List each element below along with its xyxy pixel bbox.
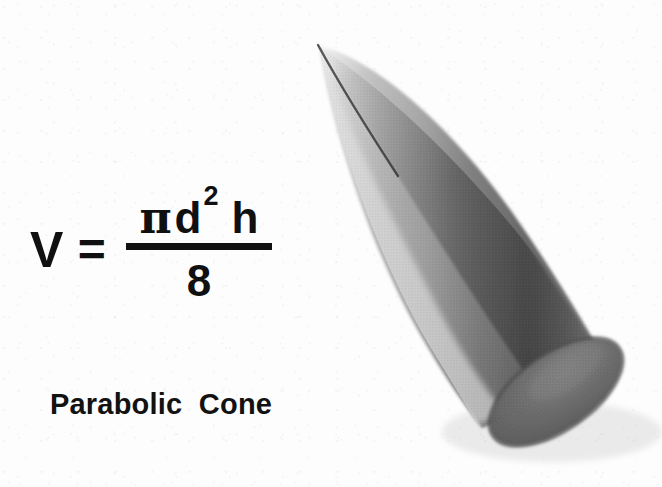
- formula-fraction: π d 2 h 8: [126, 196, 272, 303]
- figure-caption: Parabolic Cone: [50, 388, 272, 421]
- formula-denominator: 8: [187, 250, 211, 303]
- parabolic-cone-figure: V = π d 2 h 8 Parabolic Cone: [0, 0, 662, 487]
- formula-variable-v: V: [30, 225, 64, 275]
- volume-formula: V = π d 2 h 8: [30, 196, 272, 303]
- formula-numerator: π d 2 h: [131, 196, 266, 243]
- fraction-bar: [126, 243, 272, 250]
- exponent-two: 2: [203, 183, 218, 210]
- formula-equals-sign: =: [78, 226, 106, 274]
- diameter-variable: d: [175, 196, 202, 240]
- pi-symbol: π: [139, 196, 171, 240]
- height-variable: h: [232, 196, 259, 240]
